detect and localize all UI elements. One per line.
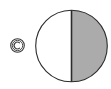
circled-c-icon <box>11 39 25 53</box>
figure-canvas: Half-shaded circle with circled C mark C… <box>0 0 111 89</box>
figure-illustration <box>0 0 111 89</box>
